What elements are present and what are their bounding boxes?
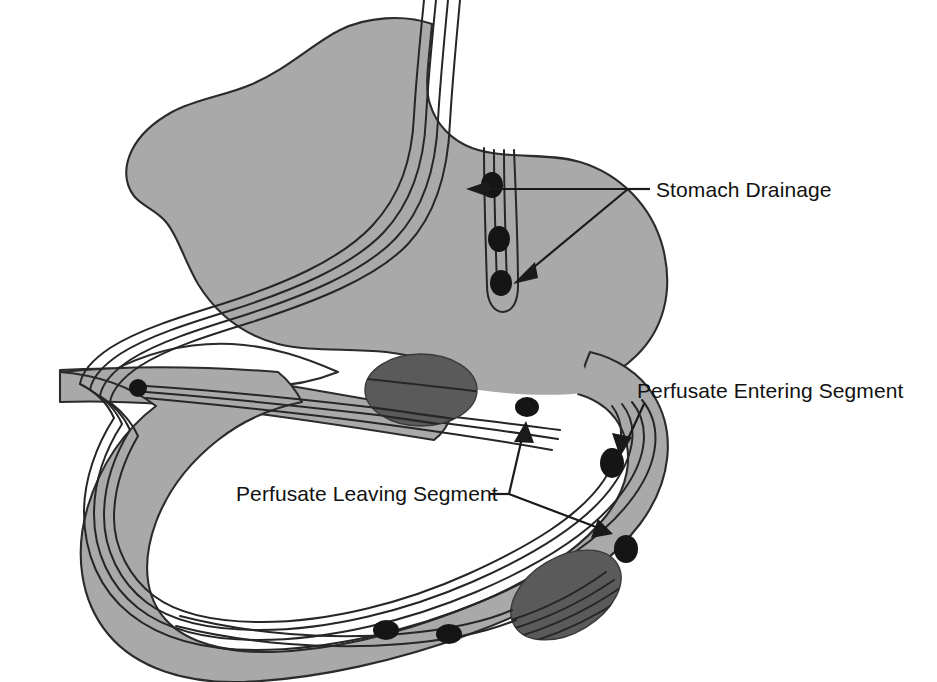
perfusate-leaving-leader-1 — [509, 438, 522, 494]
stomach-body — [126, 18, 667, 390]
node-bottom-1 — [373, 620, 399, 640]
gastric-perfusion-diagram: Stomach Drainage Perfusate Entering Segm… — [0, 0, 937, 682]
perfusate-leaving-label: Perfusate Leaving Segment — [236, 482, 498, 505]
perfusate-leaving-leader-2 — [509, 494, 596, 527]
node-entering-1 — [515, 397, 539, 417]
node-drain-3 — [490, 270, 512, 296]
perfusate-entering-label: Perfusate Entering Segment — [637, 379, 903, 402]
node-drain-2 — [488, 226, 510, 252]
diagram-canvas: Stomach Drainage Perfusate Entering Segm… — [0, 0, 937, 682]
stomach-drainage-label: Stomach Drainage — [656, 178, 832, 201]
node-left-limb — [129, 379, 147, 397]
node-entering-3 — [614, 535, 638, 563]
node-bottom-2 — [436, 624, 462, 644]
